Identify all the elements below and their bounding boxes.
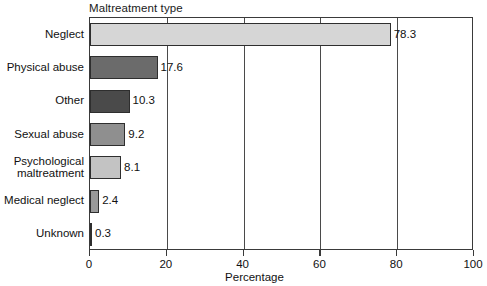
gridline-40 (244, 18, 245, 249)
bar-value-label: 0.3 (95, 228, 111, 240)
category-label-line: maltreatment (0, 167, 84, 179)
category-label: Sexual abuse (0, 128, 84, 140)
category-label-line: Psychological (0, 155, 84, 167)
x-tick-mark (396, 250, 397, 256)
plot-area (89, 17, 473, 250)
x-tick-mark (89, 250, 90, 256)
x-tick-label: 20 (159, 258, 172, 270)
bar[interactable] (90, 23, 391, 46)
category-label: Medical neglect (0, 194, 84, 206)
x-tick-mark (166, 250, 167, 256)
bar[interactable] (90, 223, 92, 246)
category-label: Neglect (0, 28, 84, 40)
chart-title: Maltreatment type (89, 2, 183, 14)
plot-inner (90, 18, 472, 249)
x-tick-label: 60 (313, 258, 326, 270)
bar-value-label: 2.4 (102, 195, 118, 207)
x-tick-label: 80 (390, 258, 403, 270)
bar-chart: Maltreatment type NeglectPhysical abuseO… (0, 0, 487, 286)
x-axis-title-text: Percentage (225, 271, 284, 283)
category-label: Unknown (0, 227, 84, 239)
category-label-line: Medical neglect (0, 194, 84, 206)
bar[interactable] (90, 156, 121, 179)
bar-value-label: 10.3 (133, 95, 155, 107)
category-label: Other (0, 94, 84, 106)
category-label-line: Sexual abuse (0, 128, 84, 140)
category-label: Physical abuse (0, 61, 84, 73)
bar-value-label: 8.1 (124, 162, 140, 174)
x-tick-label: 100 (463, 258, 482, 270)
bar-value-label: 78.3 (394, 29, 416, 41)
category-label-line: Physical abuse (0, 61, 84, 73)
x-tick-label: 0 (86, 258, 92, 270)
x-tick-mark (243, 250, 244, 256)
bar[interactable] (90, 90, 130, 113)
bar[interactable] (90, 190, 99, 213)
category-label-line: Neglect (0, 28, 84, 40)
x-axis-title: Percentage (0, 271, 487, 283)
bar-value-label: 9.2 (128, 129, 144, 141)
gridline-80 (397, 18, 398, 249)
x-tick-mark (319, 250, 320, 256)
category-label-line: Unknown (0, 227, 84, 239)
x-tick-label: 40 (236, 258, 249, 270)
category-label-line: Other (0, 94, 84, 106)
bar[interactable] (90, 123, 125, 146)
gridline-60 (320, 18, 321, 249)
gridline-20 (167, 18, 168, 249)
x-tick-mark (473, 250, 474, 256)
bar-value-label: 17.6 (161, 62, 183, 74)
bar[interactable] (90, 56, 158, 79)
category-label: Psychologicalmaltreatment (0, 155, 84, 179)
